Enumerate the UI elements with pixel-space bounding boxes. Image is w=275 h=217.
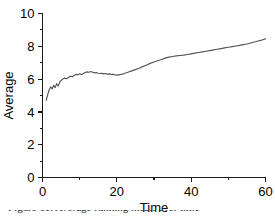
x-tick-label: 0 xyxy=(39,184,46,199)
y-tick-label: 4 xyxy=(27,105,34,120)
y-tick-label: 6 xyxy=(27,72,34,87)
line-chart: 0246810 0204060 Average Time xyxy=(0,0,275,217)
x-tick-label: 40 xyxy=(184,184,198,199)
x-tick-label: 60 xyxy=(258,184,272,199)
y-tick-label: 0 xyxy=(27,170,34,185)
figure-caption: Figure 11. Average running mean over tim… xyxy=(8,210,200,213)
y-tick-label: 2 xyxy=(27,137,34,152)
y-tick-label: 10 xyxy=(20,6,34,21)
y-tick-label: 8 xyxy=(27,39,34,54)
x-tick-label: 20 xyxy=(110,184,124,199)
figure-caption-strip: Figure 11. Average running mean over tim… xyxy=(0,210,275,217)
figure-container: 0246810 0204060 Average Time Figure 11. … xyxy=(0,0,275,217)
y-axis-title: Average xyxy=(1,71,16,119)
